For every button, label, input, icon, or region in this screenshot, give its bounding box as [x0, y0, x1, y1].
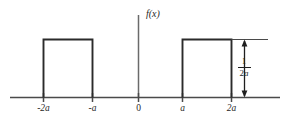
height-annotation-fraction: 1 2a [231, 57, 257, 78]
pulse-rectangle-right [183, 40, 232, 98]
fraction-denominator-variable: a [244, 68, 249, 78]
x-tick-label-origin: 0 [136, 104, 141, 114]
x-tick-label-a: a [180, 104, 185, 114]
x-tick-label-neg2a: -2a [37, 104, 50, 114]
pulse-rectangle-left [44, 40, 93, 98]
fraction-numerator: 1 [231, 57, 257, 67]
dimension-arrow-head-down [242, 91, 248, 98]
dimension-arrow-head-up [242, 40, 248, 47]
x-tick-label-2a: 2a [227, 104, 237, 114]
figure-container: f(x) -2a -a 0 a 2a 1 2a [0, 0, 290, 126]
y-axis-label: f(x) [146, 9, 160, 19]
fraction-denominator: 2a [231, 69, 257, 79]
x-tick-label-nega: -a [89, 104, 97, 114]
